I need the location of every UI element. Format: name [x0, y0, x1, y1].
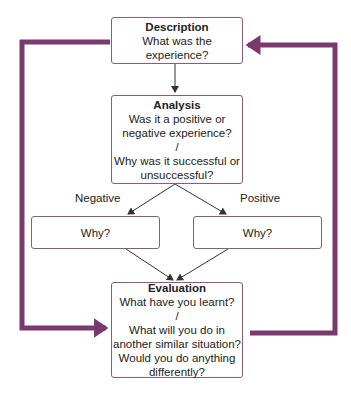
loop-arrow-left — [22, 42, 110, 328]
evaluation-line: What have you learnt? — [119, 295, 234, 309]
description-box: Description What was the experience? — [111, 17, 243, 64]
description-line: experience? — [146, 48, 209, 62]
analysis-line: Was it a positive or — [129, 112, 226, 126]
description-title: Description — [145, 20, 208, 34]
analysis-line: negative experience? — [122, 126, 231, 140]
negative-label: Negative — [75, 192, 120, 204]
loop-arrow-right — [248, 45, 335, 333]
analysis-title: Analysis — [153, 98, 200, 112]
negative-why-text: Why? — [81, 226, 110, 240]
analysis-line: Why was it successful or — [114, 154, 240, 168]
evaluation-line: / — [175, 309, 178, 323]
negative-why-box: Why? — [31, 216, 160, 249]
reflective-cycle-diagram: Description What was the experience? Ana… — [0, 0, 351, 396]
evaluation-box: Evaluation What have you learnt? / What … — [111, 282, 243, 378]
description-line: What was the — [142, 34, 212, 48]
evaluation-line: differently? — [149, 365, 205, 379]
analysis-line: unsuccessful? — [141, 168, 214, 182]
evaluation-line: another similar situation? — [113, 337, 241, 351]
analysis-box: Analysis Was it a positive or negative e… — [111, 95, 243, 184]
evaluation-line: Would you do anything — [119, 351, 236, 365]
analysis-line: / — [175, 140, 178, 154]
positive-why-text: Why? — [243, 226, 272, 240]
positive-why-box: Why? — [193, 216, 322, 249]
evaluation-title: Evaluation — [148, 281, 206, 295]
positive-label: Positive — [240, 192, 280, 204]
evaluation-line: What will you do in — [129, 323, 225, 337]
